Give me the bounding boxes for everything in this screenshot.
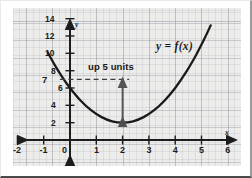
y-tick-label-2: 2 bbox=[51, 119, 56, 128]
x-tick-label-3: 3 bbox=[146, 146, 151, 155]
graph-figure: 14 12 10 8 7 6 4 2 -2 -1 0 1 2 3 4 5 6 y… bbox=[0, 0, 252, 178]
y-tick-label-8: 8 bbox=[51, 67, 56, 76]
y-axis-label: y bbox=[75, 21, 78, 29]
x-tick-label-0: 0 bbox=[62, 146, 67, 155]
x-tick-label-2: 2 bbox=[120, 146, 125, 155]
x-tick-label--2: -2 bbox=[13, 146, 21, 155]
x-axis-label: x bbox=[225, 129, 229, 137]
x-tick-label-6: 6 bbox=[225, 146, 230, 155]
x-tick-label-1: 1 bbox=[94, 146, 99, 155]
y-tick-label-10: 10 bbox=[45, 49, 54, 58]
y-tick-label-6: 6 bbox=[58, 84, 63, 93]
x-tick-label-4: 4 bbox=[173, 146, 178, 155]
y-tick-label-4: 4 bbox=[51, 101, 56, 110]
y-tick-label-12: 12 bbox=[45, 32, 54, 41]
function-label: y = f(x) bbox=[156, 41, 193, 53]
plot-area: 14 12 10 8 7 6 4 2 -2 -1 0 1 2 3 4 5 6 y… bbox=[13, 8, 241, 166]
x-tick-label-5: 5 bbox=[199, 146, 204, 155]
y-tick-label-7-reference: 7 bbox=[42, 75, 47, 85]
x-tick-label--1: -1 bbox=[40, 146, 48, 155]
y-tick-label-14: 14 bbox=[45, 15, 54, 24]
shift-annotation-label: up 5 units bbox=[88, 62, 134, 72]
